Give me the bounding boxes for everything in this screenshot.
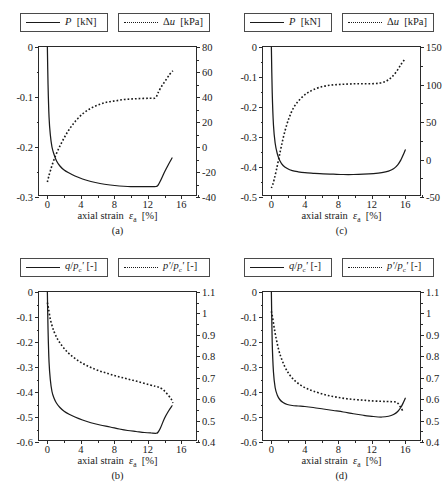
x-axis-label: 0 — [269, 199, 274, 210]
legend-label-dashed: Δu [kPa] — [163, 17, 203, 28]
y-axis-tick-left — [259, 367, 263, 368]
y-axis-label-left: -0.4 — [16, 387, 33, 398]
x-axis-minor-tick — [64, 195, 65, 198]
dotted-line-swatch-icon — [124, 19, 158, 26]
x-axis-minor-tick — [198, 440, 199, 443]
y-axis-tick-left — [259, 77, 263, 78]
x-axis-minor-tick — [288, 440, 289, 443]
y-axis-label-left: -0.4 — [240, 162, 257, 173]
curves-layer — [39, 47, 198, 197]
y-axis-minor-tick-right — [196, 431, 199, 432]
y-axis-label-right: 0.7 — [202, 372, 215, 383]
x-axis-minor-tick — [389, 440, 390, 443]
y-axis-tick-right — [420, 335, 424, 336]
legend-entry-dashed: Δu [kPa] — [118, 13, 210, 32]
y-axis-minor-tick-right — [420, 103, 423, 104]
x-axis-label: 8 — [336, 199, 341, 210]
x-axis-minor-tick — [389, 195, 390, 198]
y-axis-minor-tick-right — [420, 66, 423, 67]
y-axis-label-right: 0.4 — [202, 437, 215, 448]
y-axis-tick-right — [420, 399, 424, 400]
y-axis-label-right: 0.8 — [202, 351, 215, 362]
x-axis-label: 4 — [78, 444, 83, 455]
y-axis-minor-tick-left — [261, 92, 264, 93]
y-axis-minor-tick-left — [37, 380, 40, 381]
y-axis-tick-left — [259, 47, 263, 48]
x-axis-label: 12 — [143, 444, 154, 455]
x-axis-minor-tick — [98, 195, 99, 198]
x-axis-minor-tick — [355, 440, 356, 443]
series-curve-solid — [47, 47, 172, 187]
y-axis-minor-tick-right — [196, 110, 199, 111]
legend-label-solid: P [kN] — [65, 17, 97, 28]
y-axis-tick-right — [420, 421, 424, 422]
series-curve-dotted — [47, 71, 173, 182]
legend-label-solid: q/pc' [-] — [65, 261, 97, 274]
legend-entry-solid: P [kN] — [244, 13, 332, 32]
y-axis-label-right: 0.5 — [202, 415, 215, 426]
y-axis-label-right: -20 — [202, 167, 216, 178]
y-axis-tick-right — [196, 335, 200, 336]
legend-label-solid: P [kN] — [289, 17, 321, 28]
y-axis-tick-left — [259, 417, 263, 418]
panel-a: P [kN] Δu [kPa] 0-0.1-0.2-0.3806040200-2… — [0, 0, 224, 244]
y-axis-label-left: -0.5 — [240, 192, 257, 203]
y-axis-label-left: -0.3 — [16, 362, 33, 373]
y-axis-label-right: 100 — [426, 79, 442, 90]
y-axis-label-left: 0 — [252, 287, 257, 298]
legend-label-solid: q/pc' [-] — [289, 261, 321, 274]
y-axis-tick-left — [35, 197, 39, 198]
y-axis-tick-right — [420, 356, 424, 357]
y-axis-minor-tick-right — [196, 346, 199, 347]
x-axis-label: 0 — [45, 444, 50, 455]
x-axis-label: 16 — [176, 199, 187, 210]
legend-entry-solid: q/pc' [-] — [20, 258, 108, 277]
panel-b: q/pc' [-] p'/pc' [-] 0-0.1-0.2-0.3-0.4-0… — [0, 245, 224, 489]
y-axis-minor-tick-left — [261, 152, 264, 153]
curves-layer — [263, 47, 422, 197]
solid-line-swatch-icon — [250, 264, 284, 271]
y-axis-label-right: 1.1 — [202, 287, 215, 298]
y-axis-minor-tick-right — [420, 178, 423, 179]
series-curve-dotted — [271, 311, 402, 411]
y-axis-tick-left — [259, 392, 263, 393]
y-axis-minor-tick-right — [420, 388, 423, 389]
legend-label-dashed: p'/pc' [-] — [387, 261, 421, 274]
legend-label-dashed: p'/pc' [-] — [163, 261, 197, 274]
dotted-line-swatch-icon — [348, 264, 382, 271]
y-axis-tick-left — [35, 342, 39, 343]
legend-entry-solid: q/pc' [-] — [244, 258, 332, 277]
y-axis-label-right: 0 — [426, 154, 431, 165]
solid-line-swatch-icon — [26, 264, 60, 271]
y-axis-label-right: 0.6 — [426, 394, 439, 405]
x-axis-title-c: axial strain εa [%] — [262, 210, 421, 224]
x-axis-label: 8 — [112, 444, 117, 455]
y-axis-minor-tick-right — [196, 303, 199, 304]
y-axis-label-left: -0.2 — [240, 102, 257, 113]
y-axis-tick-left — [259, 442, 263, 443]
y-axis-label-left: -0.6 — [240, 437, 257, 448]
solid-line-swatch-icon — [250, 19, 284, 26]
y-axis-tick-left — [35, 417, 39, 418]
legend-b: q/pc' [-] p'/pc' [-] — [0, 258, 224, 282]
x-axis-minor-tick — [422, 195, 423, 198]
y-axis-minor-tick-right — [196, 135, 199, 136]
y-axis-tick-right — [196, 313, 200, 314]
x-axis-minor-tick — [355, 195, 356, 198]
y-axis-tick-right — [420, 292, 424, 293]
y-axis-minor-tick-right — [196, 160, 199, 161]
y-axis-minor-tick-right — [420, 324, 423, 325]
dotted-line-swatch-icon — [124, 264, 158, 271]
y-axis-minor-tick-left — [261, 380, 264, 381]
y-axis-label-right: 50 — [426, 117, 437, 128]
y-axis-minor-tick-right — [196, 410, 199, 411]
y-axis-label-right: 20 — [202, 117, 213, 128]
y-axis-tick-left — [259, 292, 263, 293]
y-axis-label-left: -0.2 — [16, 337, 33, 348]
y-axis-tick-right — [196, 97, 200, 98]
y-axis-minor-tick-left — [261, 182, 264, 183]
y-axis-minor-tick-right — [196, 367, 199, 368]
legend-label-dashed: Δu [kPa] — [387, 17, 427, 28]
panel-tag-d: (d) — [262, 470, 421, 481]
dotted-line-swatch-icon — [348, 19, 382, 26]
